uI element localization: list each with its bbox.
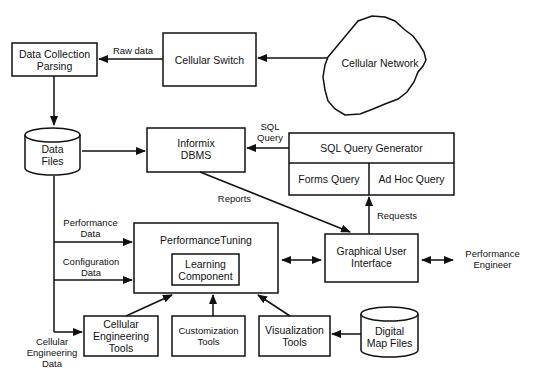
performance-engineer-label: Performance Engineer: [455, 248, 530, 270]
raw-data-label: Raw data: [108, 45, 158, 56]
data-files-label: Data Files: [25, 143, 80, 167]
customization-tools-label: Customization Tools: [172, 325, 245, 347]
reports-label: Reports: [212, 193, 257, 204]
cellular-network-label: Cellular Network: [335, 57, 425, 69]
performance-data-label: Performance Data: [58, 217, 123, 239]
adhoc-query-label: Ad Hoc Query: [369, 173, 454, 185]
performance-tuning-label: PerformanceTuning: [134, 234, 278, 246]
learning-component-label: Learning Component: [172, 258, 239, 282]
informix-label: Informix DBMS: [147, 137, 245, 161]
sql-generator-label: SQL Query Generator: [289, 142, 454, 154]
visualization-tools-label: Visualization Tools: [259, 324, 330, 348]
configuration-data-label: Configuration Data: [56, 256, 126, 278]
digital-map-files-label: Digital Map Files: [361, 325, 418, 349]
data-collection-label: Data Collection Parsing: [12, 48, 97, 72]
cellular-switch-label: Cellular Switch: [163, 54, 256, 66]
requests-label: Requests: [372, 210, 422, 221]
gui-label: Graphical User Interface: [325, 245, 418, 269]
cellular-eng-tools-label: Cellular Engineering Tools: [84, 318, 158, 354]
forms-query-label: Forms Query: [289, 173, 369, 185]
sql-query-label: SQL Query: [252, 121, 288, 143]
cellular-engineering-data-label: Cellular Engineering Data: [22, 336, 82, 369]
